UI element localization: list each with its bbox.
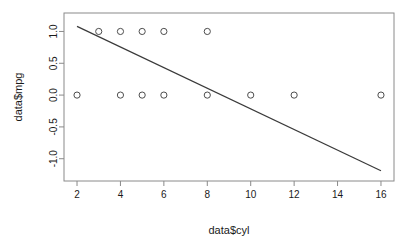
x-axis-title: data$cyl (209, 224, 250, 236)
y-tick-label: 1.0 (49, 24, 60, 38)
y-tick-label: 0.5 (49, 56, 60, 70)
data-point-marker (204, 92, 210, 98)
y-tick-label: -1.0 (49, 150, 60, 168)
y-tick-label: -0.5 (49, 118, 60, 136)
data-points-group (74, 28, 384, 98)
x-tick-label: 10 (245, 189, 257, 200)
x-tick-label: 16 (375, 189, 387, 200)
data-point-marker (139, 28, 145, 34)
y-axis-ticks-group (59, 31, 64, 158)
y-axis-title: data$mpg (12, 73, 24, 122)
x-axis-tick-labels-group: 246810121416 (74, 189, 387, 200)
data-point-marker (117, 92, 123, 98)
data-point-marker (291, 92, 297, 98)
data-point-marker (161, 92, 167, 98)
y-tick-label: 0.0 (49, 88, 60, 102)
plot-box-border (64, 13, 394, 181)
y-axis-tick-labels-group: 1.00.50.0-0.5-1.0 (49, 24, 60, 167)
data-point-marker (139, 92, 145, 98)
x-tick-label: 14 (332, 189, 344, 200)
x-tick-label: 2 (74, 189, 80, 200)
x-tick-label: 4 (118, 189, 124, 200)
plot-frame-group (64, 13, 394, 181)
data-point-marker (96, 28, 102, 34)
regression-line-group (77, 26, 381, 170)
x-axis-ticks-group (77, 181, 381, 186)
x-tick-label: 6 (161, 189, 167, 200)
data-point-marker (204, 28, 210, 34)
x-tick-label: 8 (205, 189, 211, 200)
data-point-marker (161, 28, 167, 34)
data-point-marker (74, 92, 80, 98)
x-tick-label: 12 (289, 189, 301, 200)
data-point-marker (248, 92, 254, 98)
data-point-marker (378, 92, 384, 98)
plot-canvas: 246810121416 1.00.50.0-0.5-1.0 data$cyl … (0, 0, 408, 246)
r-scatter-plot: 246810121416 1.00.50.0-0.5-1.0 data$cyl … (0, 0, 408, 246)
regression-line (77, 26, 381, 170)
data-point-marker (117, 28, 123, 34)
